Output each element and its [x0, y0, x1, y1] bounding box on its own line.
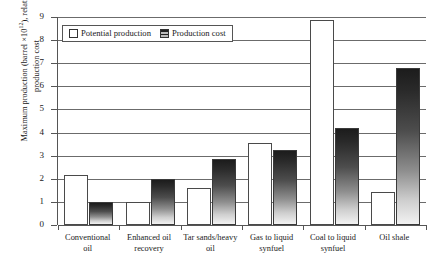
- bar-production-cost-0: [89, 202, 113, 225]
- y-tick-label-9: 9: [0, 12, 44, 21]
- x-tick-6: [426, 225, 427, 230]
- legend-item-1: Production cost: [160, 28, 226, 38]
- bars-layer: [58, 17, 426, 225]
- y-tick-label-7: 7: [0, 58, 44, 67]
- y-tick-label-4: 4: [0, 128, 44, 137]
- y-tick-label-8: 8: [0, 35, 44, 44]
- y-tick-label-1: 1: [0, 197, 44, 206]
- y-axis-title-exponent: 12: [18, 23, 24, 29]
- x-label-5: Oil shale: [358, 232, 431, 243]
- bar-potential-production-2: [187, 188, 211, 225]
- bar-potential-production-1: [126, 202, 150, 225]
- legend-item-0: Potential production: [69, 28, 151, 38]
- bar-chart: Maximum production (barrel ×1012), relat…: [0, 0, 447, 271]
- bar-production-cost-2: [212, 159, 236, 225]
- bar-potential-production-3: [248, 143, 272, 225]
- bar-production-cost-5: [396, 68, 420, 225]
- x-axis-line: [58, 225, 426, 226]
- legend-label-1: Production cost: [172, 28, 226, 38]
- bar-production-cost-1: [151, 179, 175, 225]
- bar-potential-production-0: [64, 175, 88, 225]
- hatched-square-swatch: [160, 29, 169, 38]
- y-tick-label-6: 6: [0, 81, 44, 90]
- bar-potential-production-5: [371, 192, 395, 226]
- y-tick-label-5: 5: [0, 104, 44, 113]
- top-cropped-text: [105, 0, 345, 9]
- white-square-swatch: [69, 29, 78, 38]
- bar-potential-production-4: [310, 20, 334, 225]
- y-tick-mark-0: [51, 225, 57, 226]
- y-tick-label-3: 3: [0, 151, 44, 160]
- y-tick-label-0: 0: [0, 220, 44, 229]
- plot-area: [57, 17, 425, 225]
- chart-legend: Potential productionProduction cost: [62, 25, 233, 42]
- bar-production-cost-3: [273, 150, 297, 225]
- bar-production-cost-4: [335, 128, 359, 225]
- y-tick-label-2: 2: [0, 174, 44, 183]
- legend-label-0: Potential production: [81, 28, 151, 38]
- x-axis-category-labels: ConventionaloilEnhanced oilrecoveryTar s…: [57, 232, 425, 268]
